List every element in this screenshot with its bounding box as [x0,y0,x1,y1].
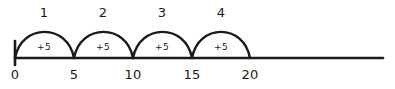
tick-label: 0 [11,68,20,81]
axis-group [15,41,383,65]
hop-amount-label: +5 [96,43,110,52]
tick-label: 5 [70,68,79,81]
hop-amount-label: +5 [214,43,228,52]
tick-label: 20 [241,68,258,81]
hop-number-label: 3 [158,6,167,19]
hop-amount-label: +5 [37,43,51,52]
tick-label: 10 [124,68,141,81]
tick-label: 15 [183,68,200,81]
hop-number-label: 4 [217,6,226,19]
hop-amount-label: +5 [155,43,169,52]
hop-number-label: 1 [40,6,49,19]
number-line-figure: 1234 +5+5+5+5 05101520 [0,0,395,89]
hop-number-label: 2 [99,6,108,19]
